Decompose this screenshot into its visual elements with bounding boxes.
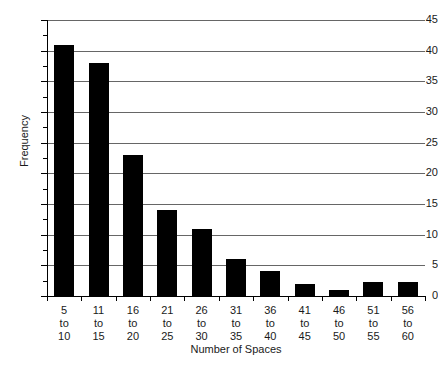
- bar: [54, 45, 74, 296]
- x-axis-tick: [184, 296, 185, 301]
- bar: [157, 210, 177, 296]
- x-axis-tick: [253, 296, 254, 301]
- bar: [329, 290, 349, 296]
- bar: [226, 259, 246, 296]
- x-axis-title: Number of Spaces: [47, 343, 425, 355]
- x-axis-tick: [116, 296, 117, 301]
- x-axis-tick: [150, 296, 151, 301]
- bar-chart: Frequency 051015202530354045 5to1011to15…: [0, 0, 438, 365]
- bar: [89, 63, 109, 296]
- x-axis-tick: [47, 296, 48, 301]
- bar: [363, 282, 383, 296]
- bar: [260, 271, 280, 296]
- x-axis-tick-label: 56to60: [386, 304, 430, 343]
- x-axis-line: [47, 296, 425, 297]
- x-axis-tick: [425, 296, 426, 301]
- bar: [398, 282, 418, 296]
- bars-group: [47, 20, 425, 296]
- x-axis-tick: [288, 296, 289, 301]
- x-axis-tick: [356, 296, 357, 301]
- bar: [295, 284, 315, 296]
- x-axis-tick: [322, 296, 323, 301]
- x-axis-tick: [219, 296, 220, 301]
- bar: [192, 229, 212, 296]
- x-axis-tick: [391, 296, 392, 301]
- y-axis-title: Frequency: [18, 71, 30, 211]
- bar: [123, 155, 143, 296]
- x-axis-tick: [81, 296, 82, 301]
